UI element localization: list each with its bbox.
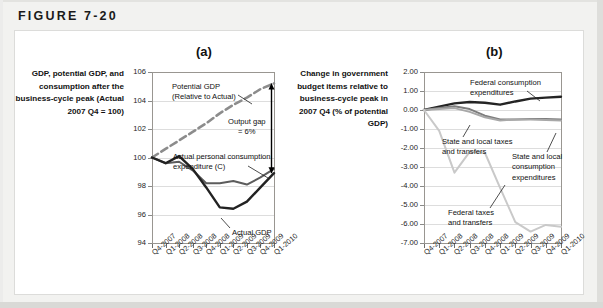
y-axis-tick-label: 98: [126, 181, 146, 190]
y-axis-tick-label: 0.00: [388, 105, 418, 114]
actual-gdp-label: Actual GDP: [232, 228, 272, 238]
y-axis-tick-label: -7.00: [388, 238, 418, 247]
y-axis-tick-label: -3.00: [388, 162, 418, 171]
y-axis-tick-label: 94: [126, 238, 146, 247]
consumption-label: Actual personal consumption expenditure …: [173, 152, 271, 173]
y-axis-tick-label: 1.00: [388, 86, 418, 95]
leader-line: [490, 185, 505, 208]
y-axis-tick-label: 106: [126, 67, 146, 76]
figure-container: FIGURE 7-20 (a) GDP, potential GDP, and …: [0, 0, 603, 308]
y-axis-tick-label: -1.00: [388, 124, 418, 133]
state-local-taxes-label: State and local taxes and transfers: [442, 137, 513, 158]
y-axis-tick-label: 104: [126, 96, 146, 105]
output-gap-label: Output gap = 6%: [228, 117, 266, 138]
potential-gdp-label: Potential GDP (Relative to Actual): [172, 82, 236, 103]
federal-taxes-label: Federal taxes and transfers: [448, 208, 494, 229]
y-axis-tick-label: 96: [126, 210, 146, 219]
y-axis-tick-label: -4.00: [388, 181, 418, 190]
y-axis-tick-label: 102: [126, 124, 146, 133]
y-axis-tick-label: -6.00: [388, 219, 418, 228]
y-axis-tick-label: -2.00: [388, 143, 418, 152]
leader-line: [547, 133, 556, 152]
y-axis-tick-label: 2.00: [388, 67, 418, 76]
y-axis-tick-label: -5.00: [388, 200, 418, 209]
leader-line: [463, 125, 470, 137]
state-local-consumption-label: State and local consumption expenditures: [512, 152, 562, 183]
y-axis-tick-label: 100: [126, 153, 146, 162]
federal-consumption-label: Federal consumption expenditures: [470, 78, 541, 99]
